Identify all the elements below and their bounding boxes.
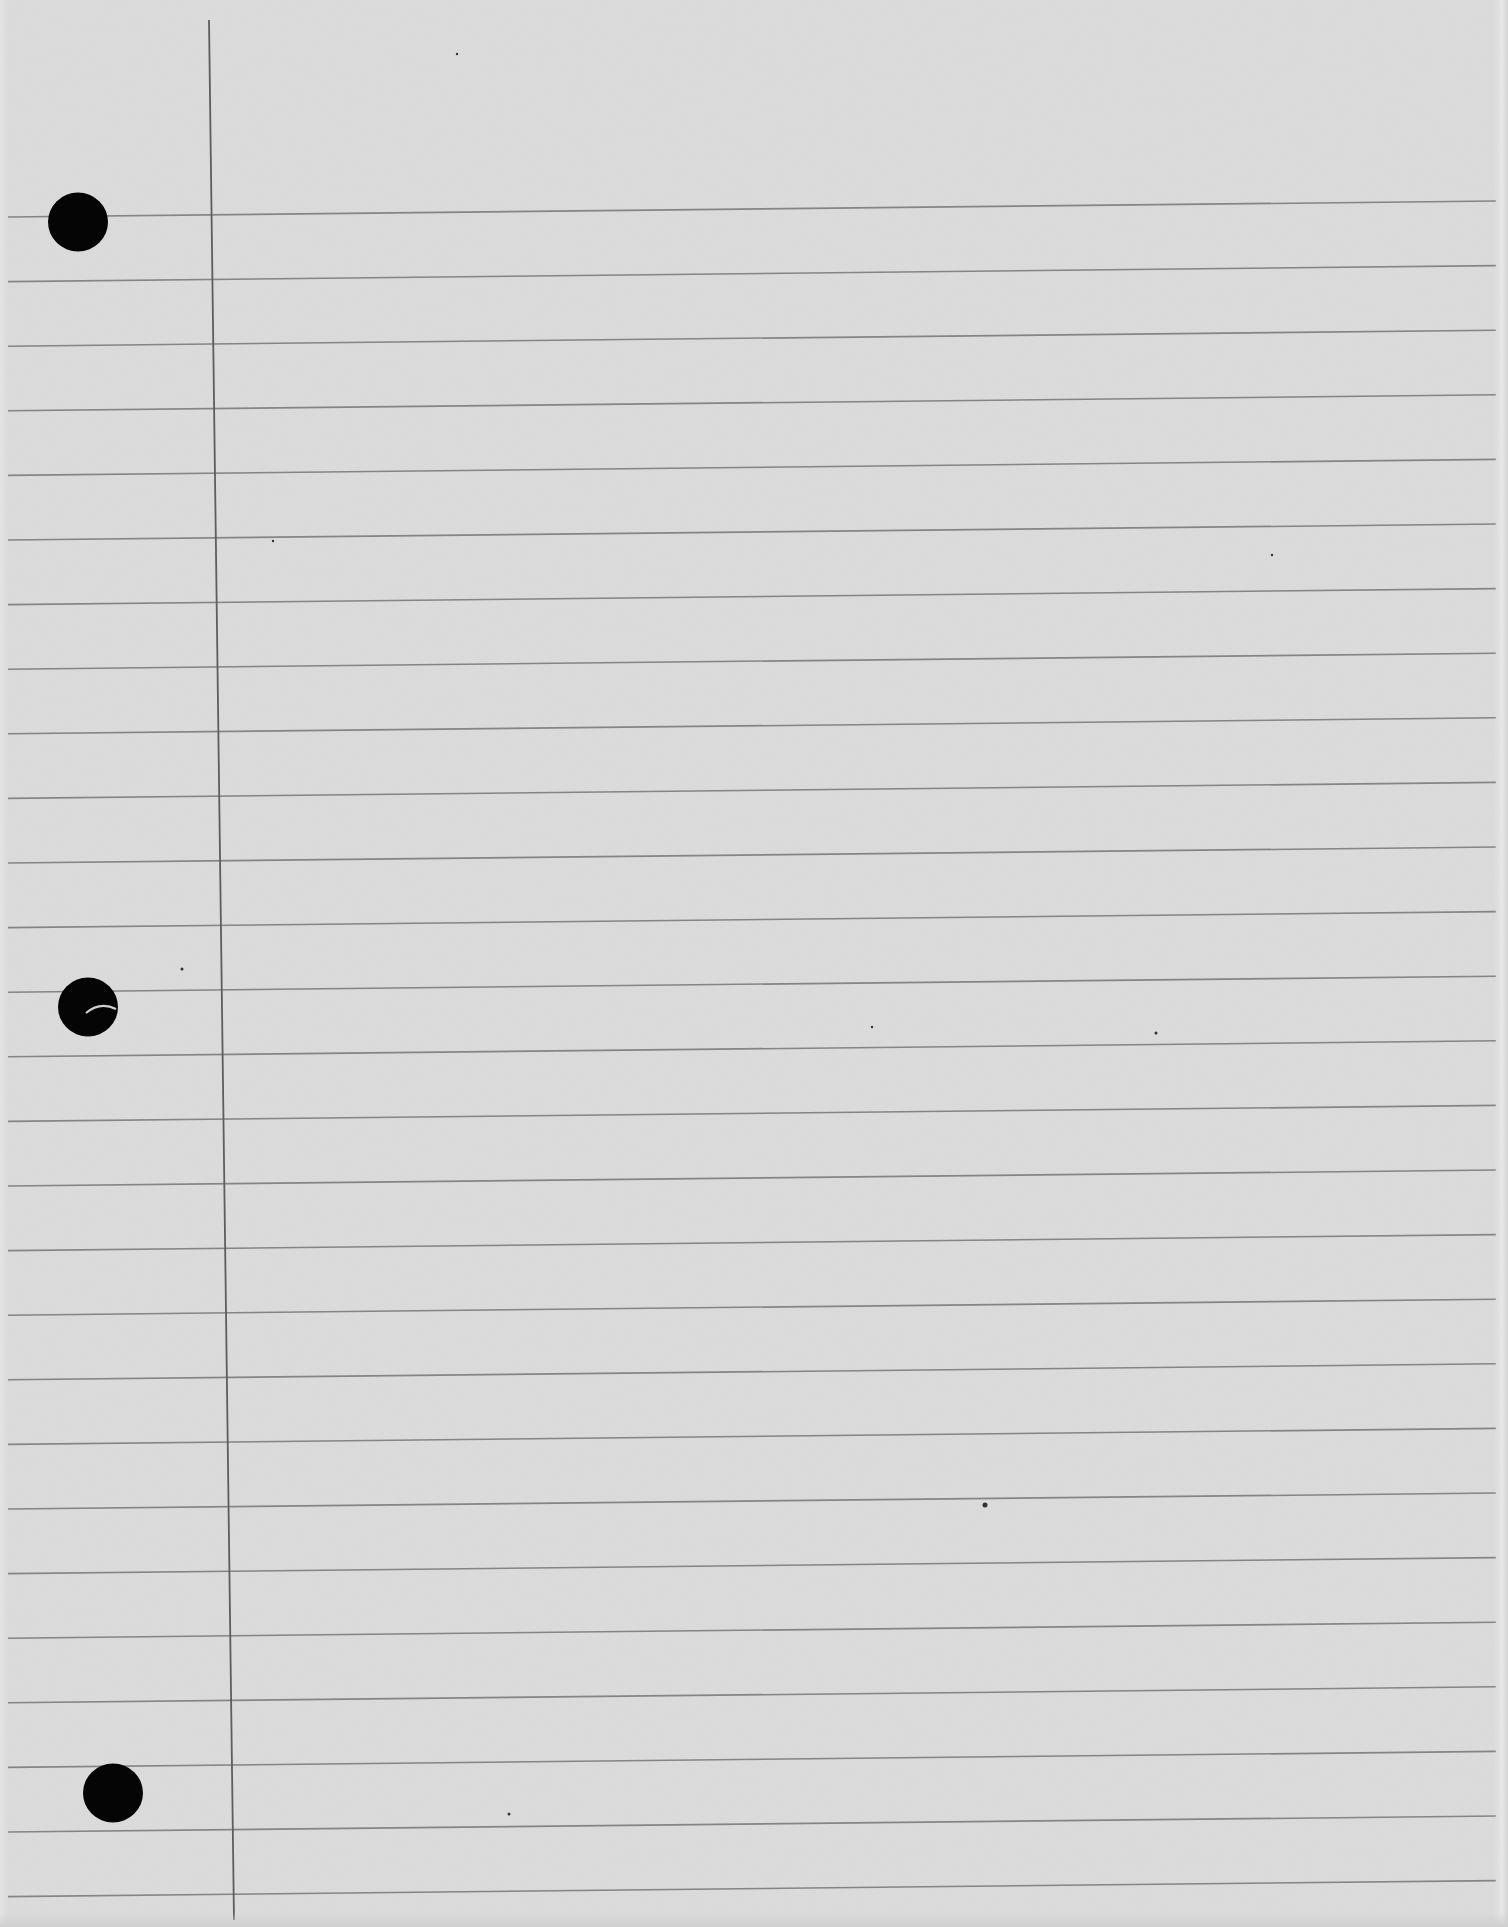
left-edge-shade — [0, 0, 8, 1927]
paper-speck — [272, 540, 274, 542]
punch-hole-bottom — [83, 1764, 143, 1823]
right-edge-shade — [1494, 0, 1508, 1927]
paper-speck — [1271, 554, 1273, 556]
paper-speck — [508, 1813, 511, 1816]
paper-speck — [871, 1026, 873, 1028]
punch-hole-top — [48, 193, 108, 252]
paper-speck — [983, 1503, 988, 1508]
paper-grain-texture — [0, 0, 1508, 1927]
paper-speck — [1155, 1032, 1158, 1035]
paper-speck — [456, 53, 458, 55]
notebook-page — [0, 0, 1508, 1927]
bottom-edge-shade — [0, 1913, 1508, 1927]
paper-speck — [181, 968, 184, 971]
paper-canvas — [0, 0, 1508, 1927]
